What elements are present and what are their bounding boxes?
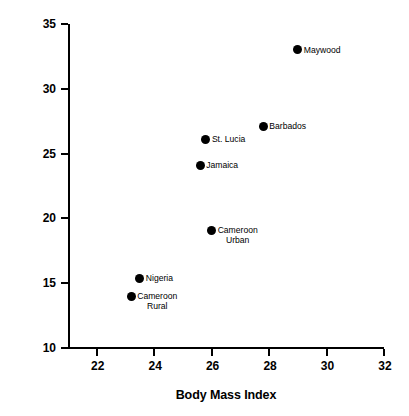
y-tick-mark: [61, 347, 68, 349]
x-tick-mark: [326, 349, 328, 356]
x-tick-label: 22: [83, 360, 113, 372]
x-tick-label: 28: [255, 360, 285, 372]
data-point-marker: [293, 45, 302, 54]
data-point-label: Barbados: [269, 121, 306, 131]
x-tick-mark: [96, 349, 98, 356]
y-axis-line: [68, 24, 70, 349]
y-tick-mark: [61, 23, 68, 25]
x-tick-label: 24: [140, 360, 170, 372]
y-tick-label: 30: [30, 83, 56, 95]
data-point-marker: [201, 135, 210, 144]
x-tick-mark: [153, 349, 155, 356]
y-tick-mark: [61, 88, 68, 90]
x-axis-title: Body Mass Index: [68, 388, 384, 402]
x-tick-label: 32: [370, 360, 400, 372]
x-axis-line: [68, 347, 384, 349]
y-tick-label: 25: [30, 148, 56, 160]
data-point-label: Cameroon Urban: [218, 225, 258, 245]
y-tick-label: 10: [30, 342, 56, 354]
x-tick-mark: [268, 349, 270, 356]
data-point-label: Jamaica: [206, 160, 238, 170]
data-point-marker: [207, 226, 216, 235]
y-tick-label: 35: [30, 18, 56, 30]
data-point-label: St. Lucia: [212, 134, 245, 144]
data-point-marker: [196, 161, 205, 170]
y-tick-mark: [61, 153, 68, 155]
data-point-label: Maywood: [304, 45, 341, 55]
y-tick-label: 20: [30, 212, 56, 224]
x-tick-mark: [383, 349, 385, 356]
data-point-marker: [127, 292, 136, 301]
data-point-label: Cameroon Rural: [137, 291, 177, 311]
x-tick-mark: [211, 349, 213, 356]
data-point-marker: [135, 274, 144, 283]
x-tick-label: 30: [313, 360, 343, 372]
data-point-label: Nigeria: [146, 273, 173, 283]
scatter-chart: Percent Hypertensives 101520253035222426…: [0, 0, 409, 416]
y-tick-label: 15: [30, 277, 56, 289]
y-tick-mark: [61, 217, 68, 219]
y-tick-mark: [61, 282, 68, 284]
data-point-marker: [259, 122, 268, 131]
x-tick-label: 26: [198, 360, 228, 372]
